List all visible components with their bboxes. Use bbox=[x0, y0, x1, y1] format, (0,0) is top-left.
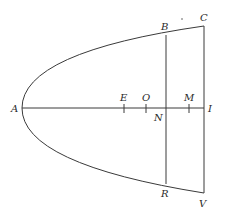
label-E: E bbox=[119, 92, 128, 103]
label-N: N bbox=[153, 112, 164, 123]
label-R: R bbox=[160, 188, 169, 199]
parabola-diagram: A B C E O M N I R V bbox=[0, 0, 225, 216]
label-V: V bbox=[199, 198, 208, 209]
dot-mark bbox=[181, 18, 183, 20]
label-O: O bbox=[142, 92, 150, 103]
label-A: A bbox=[10, 103, 18, 114]
label-M: M bbox=[183, 92, 195, 103]
label-C: C bbox=[200, 12, 208, 23]
label-B: B bbox=[160, 21, 168, 32]
parabola-curve bbox=[22, 26, 204, 193]
label-I: I bbox=[207, 103, 213, 114]
